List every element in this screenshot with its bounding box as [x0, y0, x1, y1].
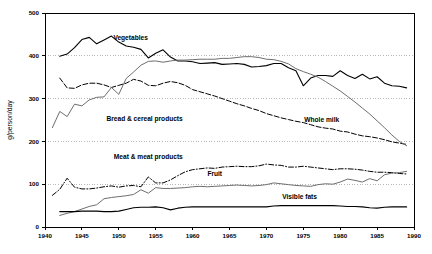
x-tick-label-1990: 1990 [407, 232, 421, 239]
y-tick-label-500: 500 [29, 9, 40, 16]
line-chart: 1940194519501955196019651970197519801985… [0, 0, 432, 254]
series-label-visible-fats: Visible fats [282, 193, 317, 200]
x-tick-label-1985: 1985 [370, 232, 384, 239]
x-tick-label-1950: 1950 [112, 232, 126, 239]
series-label-vegetables: Vegetables [113, 34, 148, 42]
x-tick-label-1980: 1980 [333, 232, 347, 239]
x-tick-label-1970: 1970 [260, 232, 274, 239]
y-tick-label-300: 300 [29, 95, 40, 102]
chart-background [0, 0, 432, 254]
x-tick-label-1955: 1955 [149, 232, 163, 239]
y-tick-label-200: 200 [29, 138, 40, 145]
y-axis-title: g/person/day [6, 100, 14, 140]
series-label-bread-cereal-products: Bread & cereal products [107, 115, 184, 123]
y-tick-label-0: 0 [36, 223, 40, 230]
y-tick-label-400: 400 [29, 52, 40, 59]
series-label-fruit: Fruit [207, 170, 222, 177]
x-tick-label-1945: 1945 [75, 232, 89, 239]
x-tick-label-1960: 1960 [186, 232, 200, 239]
series-label-meat-meat-products: Meat & meat products [114, 153, 183, 161]
y-tick-label-100: 100 [29, 180, 40, 187]
chart-container: 1940194519501955196019651970197519801985… [0, 0, 432, 254]
x-tick-label-1940: 1940 [38, 232, 52, 239]
series-label-whole-milk: Whole milk [304, 116, 339, 123]
x-tick-label-1965: 1965 [223, 232, 237, 239]
x-tick-label-1975: 1975 [296, 232, 310, 239]
